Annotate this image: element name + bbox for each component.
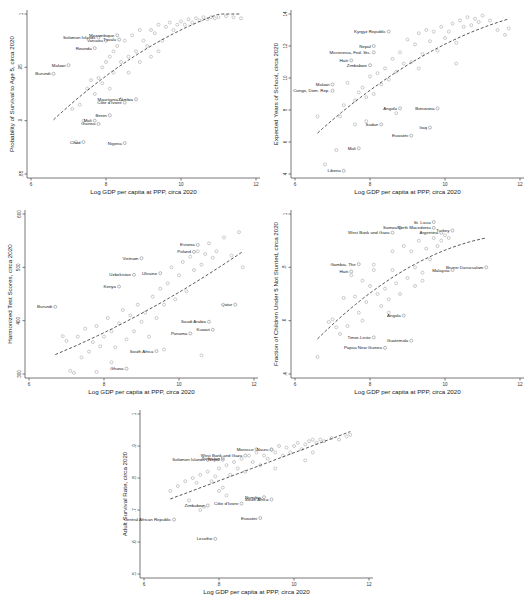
- country-label: Zimbabwe: [347, 63, 368, 68]
- y-tick-label: 4: [283, 172, 288, 175]
- data-point: [136, 303, 139, 306]
- data-point: [157, 23, 160, 26]
- labeled-data-point: [259, 517, 262, 520]
- data-point: [155, 317, 158, 320]
- labeled-data-point: [214, 537, 217, 540]
- x-tick-label: 8: [103, 382, 106, 387]
- country-label: Kuwait: [197, 327, 211, 332]
- country-label: Ukraine: [142, 271, 158, 276]
- data-point: [215, 250, 218, 253]
- country-label: Turkey: [436, 228, 450, 233]
- data-point: [410, 250, 413, 253]
- data-point: [376, 293, 379, 296]
- labeled-data-point: [189, 332, 192, 335]
- data-point: [470, 24, 473, 27]
- data-point: [384, 67, 387, 70]
- labeled-data-point: [391, 231, 394, 234]
- y-tick-label: 1: [19, 12, 24, 15]
- x-tick-label: 8: [105, 182, 108, 187]
- data-point: [195, 481, 198, 484]
- country-label: Angola: [383, 106, 397, 111]
- data-point: [251, 461, 254, 464]
- labeled-data-point: [173, 518, 176, 521]
- data-point: [346, 325, 349, 328]
- labeled-data-point: [196, 243, 199, 246]
- data-point: [507, 27, 510, 30]
- data-point: [346, 81, 349, 84]
- data-point: [417, 239, 420, 242]
- labeled-data-point: [357, 147, 360, 150]
- x-tick-label: 12: [366, 582, 372, 587]
- data-point: [350, 274, 353, 277]
- country-label: Liberia: [328, 168, 342, 173]
- labeled-data-point: [118, 285, 121, 288]
- data-point: [180, 20, 183, 23]
- y-tick-label: 600: [17, 210, 22, 218]
- data-point: [84, 327, 87, 330]
- fitted-trend-line: [54, 14, 242, 120]
- labeled-data-point: [387, 30, 390, 33]
- data-point: [489, 19, 492, 22]
- labeled-data-point: [135, 98, 138, 101]
- y-axis-title: Adult Survival Rate, circa 2020: [121, 451, 128, 536]
- labeled-data-point: [108, 114, 111, 117]
- x-tick-label: 6: [30, 182, 33, 187]
- data-point: [112, 50, 115, 53]
- labeled-data-point: [208, 320, 211, 323]
- x-tick-label: 6: [294, 182, 297, 187]
- y-tick-label: 300: [17, 370, 22, 378]
- x-tick-label: 12: [253, 182, 259, 187]
- data-point: [335, 149, 338, 152]
- data-point: [248, 454, 251, 457]
- data-point: [165, 25, 168, 28]
- data-point: [202, 16, 205, 19]
- x-tick-label: 10: [176, 382, 182, 387]
- data-point: [391, 250, 394, 253]
- country-label: Mali: [348, 146, 356, 151]
- country-label: Rwanda: [76, 46, 93, 51]
- x-tick-label: 8: [369, 182, 372, 187]
- data-point: [159, 287, 162, 290]
- data-point: [372, 93, 375, 96]
- data-point: [289, 451, 292, 454]
- y-tick-label: .95: [19, 64, 24, 71]
- data-point: [406, 38, 409, 41]
- data-point: [121, 309, 124, 312]
- data-point: [61, 335, 64, 338]
- data-point: [342, 297, 345, 300]
- data-point: [153, 32, 156, 35]
- data-point: [225, 464, 228, 467]
- data-point: [447, 237, 450, 240]
- data-point: [357, 91, 360, 94]
- labeled-data-point: [432, 221, 435, 224]
- data-point: [406, 277, 409, 280]
- data-point: [466, 16, 469, 19]
- y-tick-label: 12: [283, 43, 288, 49]
- data-point: [387, 78, 390, 81]
- data-point: [444, 234, 447, 237]
- data-point: [342, 104, 345, 107]
- chart-adult-survival: 681012.5.6.7.8.91Log GDP per capita at P…: [118, 400, 408, 600]
- data-point: [168, 21, 171, 24]
- data-point: [221, 486, 224, 489]
- data-point: [436, 245, 439, 248]
- country-label: Kenya: [104, 284, 117, 289]
- data-point: [440, 25, 443, 28]
- country-label: Micronesia, Fed. Sts.: [330, 50, 371, 55]
- country-label: Côte d'Ivoire: [214, 501, 239, 506]
- data-point: [151, 295, 154, 298]
- labeled-data-point: [193, 250, 196, 253]
- data-point: [236, 467, 239, 470]
- labeled-data-point: [402, 314, 405, 317]
- country-label: Sudan: [366, 122, 379, 127]
- data-point: [421, 53, 424, 56]
- y-axis-title: Harmonized Test Scores, circa 2020: [6, 244, 13, 344]
- data-point: [181, 261, 184, 264]
- data-point: [372, 263, 375, 266]
- x-tick-label: 10: [291, 582, 297, 587]
- data-point: [69, 369, 72, 372]
- scatter-plot-adult-survival: 681012.5.6.7.8.91Log GDP per capita at P…: [118, 400, 408, 600]
- data-point: [451, 22, 454, 25]
- data-point: [135, 50, 138, 53]
- data-point: [106, 317, 109, 320]
